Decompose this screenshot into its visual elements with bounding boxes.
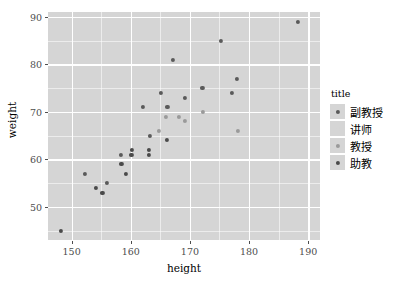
y-tick-mark [45,159,48,160]
gridline-horizontal [48,159,320,160]
gridline-horizontal [48,183,320,184]
legend-item-2[interactable]: 讲师 [330,120,402,137]
scatter-plot-figure: 5060708090 150160170180190 weight height… [0,0,402,289]
legend-key-dot [335,143,339,147]
data-point [119,162,123,166]
legend-key-swatch [330,121,345,136]
legend-item-label: 教授 [350,138,372,154]
data-point [59,228,63,232]
gridline-horizontal [48,88,320,89]
data-point [146,152,150,156]
gridline-horizontal [48,41,320,42]
gridline-horizontal [48,112,320,113]
data-point [119,152,123,156]
gridline-horizontal [48,207,320,208]
data-point [201,110,205,114]
data-point [141,105,145,109]
x-tick-mark [190,241,191,244]
data-point [171,57,175,61]
legend-key-dot [335,160,339,164]
plot-panel [48,12,320,240]
y-tick-mark [45,112,48,113]
x-tick-label: 170 [181,246,199,257]
data-point [147,148,151,152]
x-tick-mark [308,241,309,244]
legend-item-label: 副教授 [350,104,383,120]
data-point [165,138,169,142]
y-axis-label: weight [6,90,18,150]
legend-item-4[interactable]: 助教 [330,154,402,171]
y-tick-mark [45,17,48,18]
legend-key-dot [335,109,339,113]
y-tick-label: 80 [10,59,42,70]
data-point [182,119,186,123]
gridline-horizontal [48,136,320,137]
x-tick-label: 150 [63,246,81,257]
legend-items: 副教授讲师教授助教 [330,103,402,171]
data-point [129,152,133,156]
y-tick-label: 90 [10,11,42,22]
y-tick-mark [45,64,48,65]
legend-item-label: 讲师 [350,121,372,137]
legend-item-label: 助教 [350,155,372,171]
y-tick-mark [45,207,48,208]
data-point [165,105,169,109]
data-point [83,171,87,175]
data-point [219,38,223,42]
x-tick-mark [131,241,132,244]
data-point [105,181,109,185]
x-tick-label: 160 [122,246,140,257]
x-tick-label: 190 [299,246,317,257]
gridline-horizontal [48,17,320,18]
data-point [164,114,168,118]
legend-item-1[interactable]: 副教授 [330,103,402,120]
x-axis-label: height [48,262,320,274]
legend: title 副教授讲师教授助教 [330,88,402,171]
data-point [230,91,234,95]
legend-key-swatch [330,155,345,170]
legend-key-swatch [330,104,345,119]
legend-title: title [330,88,402,99]
y-tick-label: 50 [10,201,42,212]
legend-key-swatch [330,138,345,153]
data-point [295,19,299,23]
data-point [148,133,152,137]
data-point [130,148,134,152]
data-point [200,86,204,90]
data-point [94,186,98,190]
data-point [235,76,239,80]
x-tick-mark [249,241,250,244]
gridline-horizontal [48,231,320,232]
data-point [236,129,240,133]
legend-key-dot [335,126,339,130]
x-tick-label: 180 [240,246,258,257]
y-tick-label: 60 [10,154,42,165]
x-tick-mark [72,241,73,244]
data-point [124,171,128,175]
data-point [177,114,181,118]
data-point [159,91,163,95]
gridline-horizontal [48,64,320,65]
data-point [183,95,187,99]
legend-item-3[interactable]: 教授 [330,137,402,154]
data-point [100,190,104,194]
